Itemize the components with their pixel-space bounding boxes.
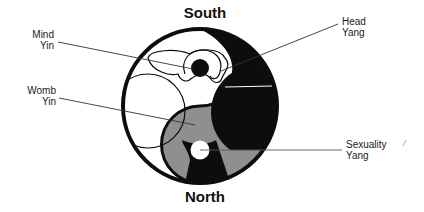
label-mind-line1: Mind	[24, 29, 54, 40]
label-mind-yin: Mind Yin	[24, 29, 54, 51]
label-sexuality-yang: Sexuality Yang	[346, 139, 387, 161]
label-womb-line1: Womb	[20, 85, 56, 96]
label-mind-line2: Yin	[24, 40, 54, 51]
north-label: North	[165, 188, 245, 205]
stray-mark: /	[403, 138, 406, 148]
label-sexuality-line1: Sexuality	[346, 139, 387, 150]
label-womb-yin: Womb Yin	[20, 85, 56, 107]
label-head-yang: Head Yang	[342, 16, 366, 38]
mind-dot	[191, 59, 209, 77]
label-sexuality-line2: Yang	[346, 150, 387, 161]
right-black-circle	[211, 65, 305, 159]
label-womb-line2: Yin	[20, 96, 56, 107]
south-label: South	[165, 4, 245, 21]
label-head-line1: Head	[342, 16, 366, 27]
label-head-line2: Yang	[342, 27, 366, 38]
yin-yang-diagram: South North Mind Yin Womb Yin Head Yang …	[0, 0, 424, 212]
